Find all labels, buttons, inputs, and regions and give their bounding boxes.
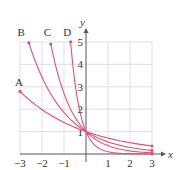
x-tick-label: −3 xyxy=(14,157,26,169)
y-tick-label: 5 xyxy=(78,36,84,48)
curve-end-arrow-icon xyxy=(150,152,153,155)
y-tick-label: 3 xyxy=(78,81,84,93)
x-tick-label: 2 xyxy=(127,157,133,169)
curve-label-d: D xyxy=(63,26,71,38)
curve-start-arrow-icon xyxy=(18,90,21,93)
curve-end-arrow-icon xyxy=(150,144,153,147)
exponential-decay-chart: xy−3−2−112312345ABCD xyxy=(0,0,177,170)
curve-label-a: A xyxy=(15,76,23,88)
curve-label-c: C xyxy=(44,26,51,38)
curve-start-arrow-icon xyxy=(69,40,72,43)
x-tick-label: 1 xyxy=(105,157,111,169)
y-axis-arrow-icon xyxy=(84,28,89,33)
y-tick-label: 4 xyxy=(78,58,84,70)
x-axis-label: x xyxy=(167,148,173,160)
x-tick-label: 3 xyxy=(149,157,155,169)
curve-start-arrow-icon xyxy=(49,42,52,45)
y-axis-label: y xyxy=(79,16,85,28)
x-tick-label: −1 xyxy=(58,157,70,169)
x-tick-label: −2 xyxy=(36,157,48,169)
curve-b xyxy=(29,43,152,151)
curve-label-b: B xyxy=(17,26,24,38)
x-axis-arrow-icon xyxy=(161,152,166,157)
curve-start-arrow-icon xyxy=(27,41,30,44)
